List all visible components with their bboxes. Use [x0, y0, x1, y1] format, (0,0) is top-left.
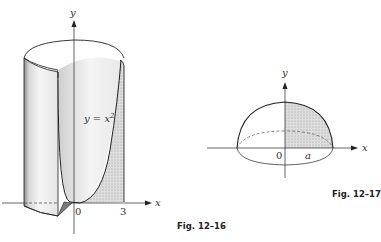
x-axis-arrow-icon — [145, 201, 152, 206]
y-axis-arrow-icon-2 — [283, 82, 288, 89]
caption-fig-12-16: Fig. 12–16 — [177, 221, 226, 231]
x-axis-arrow-icon-2 — [351, 146, 358, 151]
origin-label-2: 0 — [276, 150, 282, 161]
cylinder-bottom-wedge — [58, 202, 72, 216]
y-axis-arrow-icon — [72, 20, 77, 27]
y-axis-label: y — [69, 7, 76, 18]
figure-12-17: y x 0 a — [207, 67, 368, 178]
shaded-quarter-disk — [285, 102, 333, 148]
origin-label: 0 — [75, 206, 81, 217]
x-axis-label-2: x — [362, 142, 368, 153]
figure-12-16: y x 0 3 y = x2 — [2, 7, 161, 234]
caption-fig-12-17: Fig. 12–17 — [332, 189, 381, 199]
cylinder-outer-wall — [24, 58, 58, 216]
x-axis-label: x — [155, 197, 161, 208]
y-axis-label-2: y — [281, 67, 288, 78]
x-tick-label: 3 — [120, 206, 126, 217]
x-tick-label-2: a — [305, 150, 311, 161]
